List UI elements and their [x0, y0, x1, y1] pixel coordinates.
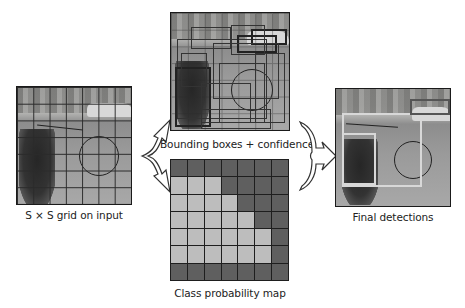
detection-box-car [410, 99, 450, 115]
probability-cell [222, 212, 238, 228]
probability-cell [255, 229, 271, 245]
probability-cell [272, 177, 288, 193]
probability-cell [238, 212, 254, 228]
probability-cell [272, 229, 288, 245]
probability-cell [222, 246, 238, 262]
probability-cell [205, 177, 221, 193]
bounding-boxes-label: Bounding boxes + confidence [160, 138, 300, 150]
detection-box-dog [342, 133, 376, 185]
probability-cell [188, 264, 204, 280]
candidate-box [201, 109, 271, 129]
probability-cell [272, 160, 288, 176]
probability-cell [171, 264, 187, 280]
probability-cell [188, 177, 204, 193]
class-probability-map [170, 159, 289, 281]
probability-cell [255, 177, 271, 193]
probability-cell [255, 195, 271, 211]
probability-cell [222, 195, 238, 211]
probability-cell [238, 160, 254, 176]
probability-cell [171, 177, 187, 193]
probability-cell [238, 195, 254, 211]
probability-cell [238, 177, 254, 193]
probability-cell [222, 177, 238, 193]
probability-cell [188, 212, 204, 228]
probability-cell [272, 212, 288, 228]
probability-cell [205, 264, 221, 280]
probability-cell [205, 160, 221, 176]
probability-cell [272, 246, 288, 262]
candidate-box [191, 27, 231, 49]
probability-cell [255, 160, 271, 176]
sxs-grid-overlay [17, 87, 131, 204]
final-detections-label: Final detections [336, 211, 450, 223]
input-image-panel [16, 86, 132, 205]
probability-cell [171, 195, 187, 211]
probability-cell [188, 195, 204, 211]
candidate-box [181, 53, 207, 87]
bounding-boxes-panel [170, 12, 290, 131]
probability-cell [188, 246, 204, 262]
class-probability-label: Class probability map [165, 287, 295, 299]
probability-cell [205, 246, 221, 262]
probability-cell [188, 160, 204, 176]
probability-cell [238, 229, 254, 245]
probability-cell [171, 229, 187, 245]
probability-cell [171, 212, 187, 228]
probability-cell [205, 195, 221, 211]
probability-cell [238, 264, 254, 280]
probability-cell [272, 264, 288, 280]
probability-cell [171, 246, 187, 262]
probability-cell [205, 229, 221, 245]
probability-cell [205, 212, 221, 228]
probability-cell [272, 195, 288, 211]
probability-cell [222, 229, 238, 245]
merge-arrow-icon [296, 112, 338, 200]
final-detections-panel [335, 88, 451, 207]
probability-cell [255, 264, 271, 280]
probability-cell [188, 229, 204, 245]
input-label: S × S grid on input [18, 209, 130, 221]
probability-cell [222, 160, 238, 176]
probability-cell [255, 246, 271, 262]
probability-cell [171, 160, 187, 176]
probability-cell [238, 246, 254, 262]
candidate-box [231, 25, 265, 55]
probability-cell [255, 212, 271, 228]
probability-cell [222, 264, 238, 280]
